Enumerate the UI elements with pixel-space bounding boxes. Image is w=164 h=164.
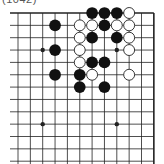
white-stone: [74, 32, 85, 43]
black-stone: [99, 19, 111, 31]
black-stone: [111, 7, 123, 19]
black-stone: [86, 32, 98, 44]
star-point: [115, 122, 119, 126]
go-board: [0, 0, 164, 164]
black-stone: [111, 32, 123, 44]
white-stone: [124, 8, 135, 19]
black-stone: [49, 19, 61, 31]
black-stone: [99, 57, 111, 69]
white-stone: [87, 20, 98, 31]
black-stone: [74, 69, 86, 81]
white-stone: [87, 69, 98, 80]
white-stone: [124, 20, 135, 31]
white-stone: [111, 20, 122, 31]
star-point: [41, 48, 45, 52]
white-stone: [74, 20, 85, 31]
black-stone: [86, 7, 98, 19]
white-stone: [124, 32, 135, 43]
black-stone: [49, 69, 61, 81]
star-point: [41, 122, 45, 126]
white-stone: [124, 69, 135, 80]
white-stone: [74, 45, 85, 56]
black-stone: [99, 7, 111, 19]
white-stone: [74, 57, 85, 68]
black-stone: [86, 57, 98, 69]
black-stone: [49, 44, 61, 56]
white-stone: [124, 45, 135, 56]
black-stone: [74, 81, 86, 93]
black-stone: [99, 81, 111, 93]
star-point: [115, 48, 119, 52]
